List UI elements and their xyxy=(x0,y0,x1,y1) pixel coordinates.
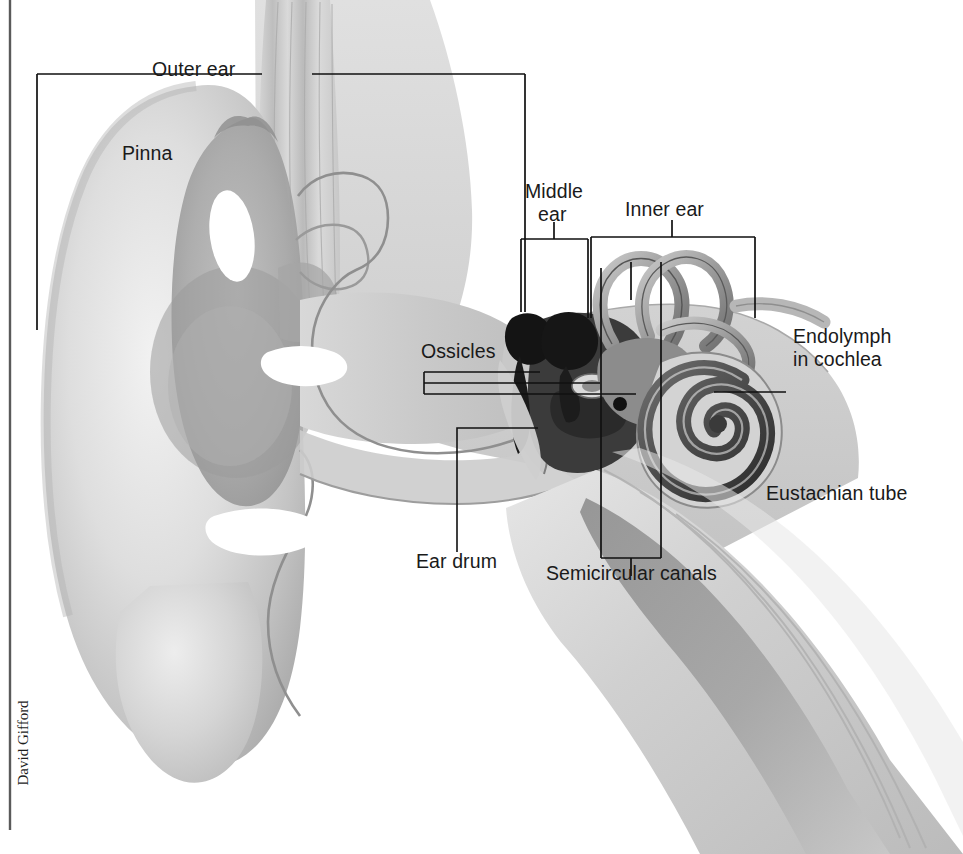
label-ear-drum: Ear drum xyxy=(416,550,497,573)
eustachian-tube xyxy=(506,448,963,854)
ear-illustration xyxy=(0,0,963,854)
label-inner-ear: Inner ear xyxy=(625,198,704,221)
artist-credit: David Gifford xyxy=(15,656,32,786)
label-middle-ear-line1: Middle xyxy=(525,180,583,203)
label-ossicles: Ossicles xyxy=(421,340,495,363)
figure-canvas: Outer ear Pinna Middle ear Inner ear Oss… xyxy=(0,0,963,854)
middle-ear-bracket xyxy=(521,239,588,318)
label-middle-ear-line2: ear xyxy=(538,203,566,226)
label-semicircular-canals: Semicircular canals xyxy=(546,562,717,585)
label-pinna: Pinna xyxy=(122,142,172,165)
label-eustachian-tube: Eustachian tube xyxy=(766,482,907,505)
label-endolymph-line1: Endolymph xyxy=(793,325,891,348)
label-outer-ear: Outer ear xyxy=(152,58,235,81)
label-endolymph-line2: in cochlea xyxy=(793,348,882,371)
